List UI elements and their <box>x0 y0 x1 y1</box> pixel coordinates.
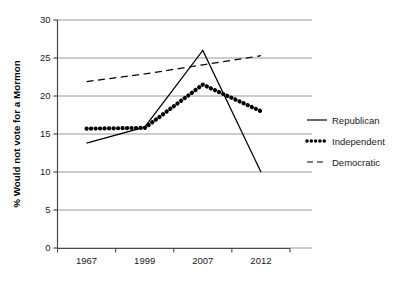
y-tick-label: 5 <box>45 204 50 215</box>
series-line-republican <box>87 50 261 172</box>
series-line-democratic <box>87 56 261 82</box>
y-tick-label: 20 <box>40 90 51 101</box>
x-tick-label: 1999 <box>134 255 155 266</box>
y-axis-title: % Would not vote for a Mormon <box>11 60 22 207</box>
x-tick-label: 2007 <box>192 255 213 266</box>
gridlines <box>58 20 313 248</box>
y-tick-label: 10 <box>40 166 51 177</box>
legend-label-independent: Independent <box>332 136 385 147</box>
y-tick-label: 30 <box>40 14 51 25</box>
x-tick-label: 1967 <box>76 255 97 266</box>
legend-label-republican: Republican <box>332 115 380 126</box>
y-tick-label: 0 <box>45 242 50 253</box>
chart-container: 051015202530 1967199920072012 % Would no… <box>0 0 402 283</box>
y-tick-label: 15 <box>40 128 51 139</box>
series-line-independent <box>87 85 261 129</box>
chart-legend: RepublicanIndependentDemocratic <box>307 115 385 168</box>
y-axis-ticks: 051015202530 <box>40 14 58 253</box>
x-tick-label: 2012 <box>250 255 271 266</box>
legend-label-democratic: Democratic <box>332 157 380 168</box>
x-axis-ticks: 1967199920072012 <box>58 248 291 266</box>
y-tick-label: 25 <box>40 52 51 63</box>
line-chart: 051015202530 1967199920072012 % Would no… <box>0 0 402 283</box>
data-series-layer <box>87 50 261 172</box>
